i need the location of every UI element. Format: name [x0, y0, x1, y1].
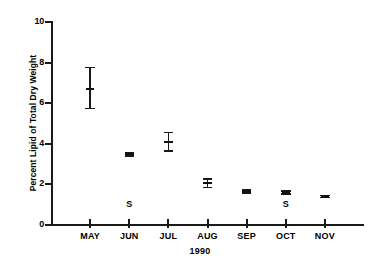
error-bar-cap-upper	[203, 178, 213, 180]
y-axis-title: Percent Lipid of Total Dry Weight	[28, 23, 38, 223]
x-axis-tick	[324, 219, 326, 228]
sample-annotation-s: S	[119, 200, 139, 209]
mean-marker	[282, 191, 291, 193]
lipid-percent-chart: 0246810 MAYJUNJULAUGSEPOCTNOV SS Percent…	[0, 0, 375, 274]
error-bar-cap-upper	[164, 132, 174, 134]
y-axis-tick	[45, 224, 53, 226]
sample-annotation-s: S	[276, 200, 296, 209]
error-bar-cap-lower	[125, 155, 135, 157]
mean-marker	[125, 153, 134, 155]
x-axis-tick	[246, 219, 248, 228]
y-axis-line	[51, 22, 53, 226]
mean-marker	[164, 141, 173, 143]
x-axis-tick	[89, 219, 91, 228]
y-axis-tick	[45, 102, 53, 104]
x-axis-tick	[207, 219, 209, 228]
mean-marker	[242, 190, 251, 192]
error-bar-cap-lower	[85, 108, 95, 110]
error-bar-cap-lower	[164, 150, 174, 152]
x-axis-tick	[285, 219, 287, 228]
x-axis-tick	[128, 219, 130, 228]
y-axis-tick	[45, 183, 53, 185]
x-axis-tick	[167, 219, 169, 228]
y-axis-tick	[45, 143, 53, 145]
mean-marker	[321, 195, 330, 197]
x-axis-title: 1990	[160, 246, 240, 256]
error-bar-cap-upper	[85, 67, 95, 69]
error-bar-cap-lower	[203, 187, 213, 189]
mean-marker	[203, 182, 212, 184]
mean-marker	[86, 88, 95, 90]
y-axis-tick	[45, 21, 53, 23]
x-axis-tick-label: NOV	[301, 231, 349, 241]
y-axis-tick	[45, 62, 53, 64]
